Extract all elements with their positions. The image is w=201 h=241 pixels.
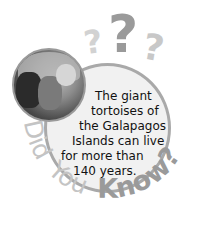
arc-text: Did You Know? xyxy=(18,117,186,204)
did-you-know-arc: Did You Know? xyxy=(0,0,201,241)
arc-word-know: Know? xyxy=(97,141,186,204)
arc-word-you: You xyxy=(42,154,92,200)
arc-word-did: Did xyxy=(18,117,58,164)
did-you-know-graphic: ? ? ? The giant tortoises of the Galapag… xyxy=(0,0,201,241)
